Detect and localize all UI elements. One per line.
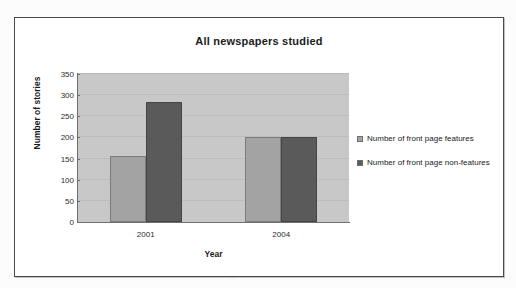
y-axis-tick-label: 50 [48, 196, 74, 205]
bar-2004-series-1 [281, 137, 317, 222]
bar-2001-series-0 [110, 156, 146, 222]
y-axis-tick-label: 100 [48, 175, 74, 184]
y-axis-tick-label: 200 [48, 133, 74, 142]
legend-label: Number of front page non-features [367, 158, 490, 169]
y-axis-tick-labels: 050100150200250300350 [44, 74, 74, 222]
chart-frame: All newspapers studied 05010015020025030… [14, 17, 504, 277]
x-axis-title: Year [78, 249, 349, 259]
bar-2001-series-1 [146, 102, 182, 223]
bar-2004-series-0 [245, 137, 281, 222]
x-axis-tick-label: 2001 [116, 230, 176, 239]
gridline [78, 73, 349, 74]
y-axis-tick-label: 350 [48, 70, 74, 79]
chart-page: All newspapers studied 05010015020025030… [0, 0, 516, 288]
legend-item: Number of front page features [357, 134, 505, 145]
y-axis-title: Number of stories [32, 63, 42, 163]
gridline [78, 94, 349, 95]
y-axis-tick-label: 250 [48, 112, 74, 121]
y-axis-tick-label: 300 [48, 91, 74, 100]
legend-swatch-icon [357, 160, 363, 166]
y-axis-tick-label: 0 [48, 218, 74, 227]
y-axis-tick-label: 150 [48, 154, 74, 163]
x-axis-tick-label: 2004 [251, 230, 311, 239]
chart-legend: Number of front page featuresNumber of f… [357, 134, 505, 181]
y-axis-line [77, 73, 78, 223]
legend-item: Number of front page non-features [357, 158, 505, 169]
legend-swatch-icon [357, 136, 363, 142]
chart-title: All newspapers studied [15, 35, 503, 47]
gridline [78, 115, 349, 116]
x-axis-line [77, 222, 350, 223]
plot-area [78, 74, 349, 222]
legend-label: Number of front page features [367, 134, 474, 145]
